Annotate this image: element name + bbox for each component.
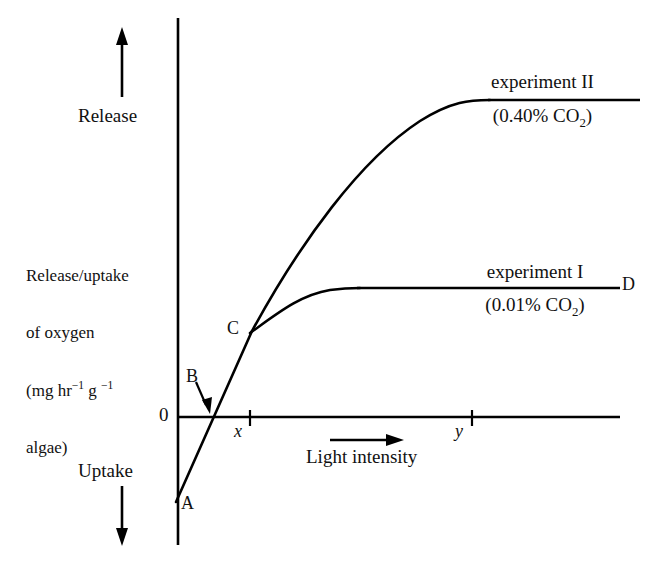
x-axis-title: Light intensity (306, 446, 417, 467)
experiment-2-conc-prefix: (0.40% CO (493, 105, 580, 126)
point-label-d: D (622, 274, 635, 294)
experiment-1-conc-prefix: (0.01% CO (485, 294, 572, 315)
y-axis-zero-label: 0 (159, 404, 169, 425)
experiment-2-concentration: (0.40% CO2) (455, 105, 630, 130)
point-label-b: B (186, 366, 198, 386)
y-axis-title-line-1: Release/uptake (26, 266, 129, 285)
experiment-1-concentration: (0.01% CO2) (455, 294, 615, 319)
experiment-1-conc-suffix: ) (578, 294, 584, 315)
release-direction-label: Release (78, 105, 137, 126)
x-axis-tick-label-y: y (455, 421, 463, 441)
y-axis-units-exponent-2: −1 (101, 379, 113, 392)
experiment-2-label: experiment II (455, 71, 630, 92)
light-intensity-arrow (330, 434, 404, 446)
experiment-2-conc-suffix: ) (586, 105, 592, 126)
y-axis-title-line-4: algae) (26, 438, 129, 457)
point-label-a: A (181, 493, 194, 513)
y-axis-units-exponent-1: −1 (72, 379, 84, 392)
y-axis-title-line-3: (mg hr−1 g −1 (26, 380, 129, 400)
y-axis-title-line-2: of oxygen (26, 323, 129, 342)
release-direction-arrow (116, 27, 128, 97)
point-b-pointer-arrow (196, 382, 212, 414)
y-axis-units-prefix: (mg hr (26, 381, 72, 400)
point-label-c: C (227, 318, 239, 338)
experiment-1-curve (250, 288, 360, 333)
experiment-1-label: experiment I (455, 261, 615, 282)
oxygen-light-intensity-chart: Release Uptake Release/uptake of oxygen … (0, 0, 645, 561)
y-axis-title: Release/uptake of oxygen (mg hr−1 g −1 a… (26, 228, 129, 495)
y-axis-units-middle: g (84, 381, 101, 400)
x-axis-tick-label-x: x (234, 421, 242, 441)
